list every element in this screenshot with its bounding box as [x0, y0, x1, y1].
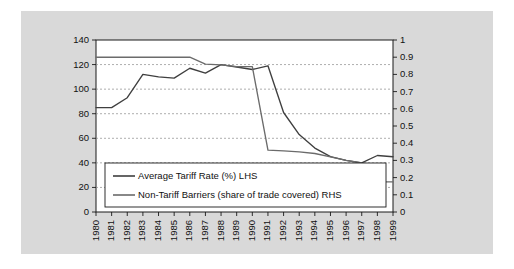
- x-axis-tick-label: 1988: [215, 220, 226, 241]
- y-axis-left-tick-label: 140: [73, 34, 89, 45]
- x-axis-tick-label: 1985: [168, 220, 179, 241]
- x-axis-tick-label: 1994: [308, 220, 319, 241]
- y-axis-left-tick-label: 100: [73, 83, 89, 94]
- x-axis-tick-label: 1996: [340, 220, 351, 241]
- legend-label-1: Average Tariff Rate (%) LHS: [138, 170, 257, 181]
- y-axis-left-tick-label: 20: [78, 181, 89, 192]
- y-axis-right-tick-label: 0.2: [400, 172, 413, 183]
- x-axis-tick-label: 1995: [324, 220, 335, 241]
- y-axis-right-tick-label: 0.8: [400, 68, 413, 79]
- y-axis-right-tick-label: 0.9: [400, 51, 413, 62]
- x-axis-tick-label: 1990: [246, 220, 257, 241]
- y-axis-left-tick-label: 120: [73, 59, 89, 70]
- y-axis-right-tick-label: 0.4: [400, 137, 413, 148]
- y-axis-left-tick-label: 60: [78, 132, 89, 143]
- x-axis-tick-label: 1986: [183, 220, 194, 241]
- legend: Average Tariff Rate (%) LHSNon-Tariff Ba…: [105, 163, 386, 207]
- y-axis-right-tick-label: 0.7: [400, 86, 413, 97]
- legend-label-2: Non-Tariff Barriers (share of trade cove…: [138, 189, 342, 200]
- x-axis-tick-label: 1982: [121, 220, 132, 241]
- x-axis-tick-label: 1998: [371, 220, 382, 241]
- y-axis-right-tick-label: 0: [400, 206, 405, 217]
- y-axis-left-tick-label: 40: [78, 157, 89, 168]
- y-axis-left: 020406080100120140: [73, 34, 96, 217]
- x-axis-tick-label: 1989: [230, 220, 241, 241]
- x-axis-tick-label: 1983: [136, 220, 147, 241]
- y-axis-right-tick-label: 0.5: [400, 120, 413, 131]
- x-axis-tick-label: 1992: [277, 220, 288, 241]
- y-axis-right: 00.10.20.30.40.50.60.70.80.91: [393, 34, 413, 217]
- x-axis-tick-label: 1993: [293, 220, 304, 241]
- y-axis-right-tick-label: 0.1: [400, 189, 413, 200]
- line-chart: 02040608010012014000.10.20.30.40.50.60.7…: [0, 0, 514, 269]
- x-axis-tick-label: 1991: [261, 220, 272, 241]
- figure-container: 02040608010012014000.10.20.30.40.50.60.7…: [0, 0, 514, 269]
- y-axis-right-tick-label: 1: [400, 34, 405, 45]
- y-axis-left-tick-label: 80: [78, 108, 89, 119]
- y-axis-left-tick-label: 0: [84, 206, 89, 217]
- x-axis-tick-label: 1999: [387, 220, 398, 241]
- x-axis-tick-label: 1984: [152, 220, 163, 241]
- x-axis-tick-label: 1981: [105, 220, 116, 241]
- x-axis-tick-label: 1987: [199, 220, 210, 241]
- y-axis-right-tick-label: 0.6: [400, 103, 413, 114]
- x-axis-tick-label: 1980: [90, 220, 101, 241]
- x-axis-tick-label: 1997: [355, 220, 366, 241]
- x-axis: 1980198119821983198419851986198719881989…: [90, 212, 398, 241]
- y-axis-right-tick-label: 0.3: [400, 154, 413, 165]
